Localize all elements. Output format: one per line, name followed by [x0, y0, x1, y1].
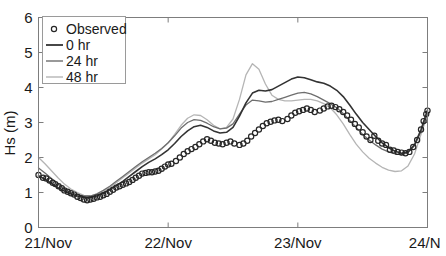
x-tick-label: 23/Nov	[274, 234, 322, 251]
y-tick-label: 6	[24, 9, 32, 26]
y-tick-label: 2	[24, 149, 32, 166]
x-tick-label: 21/Nov	[25, 234, 73, 251]
x-tick-label: 22/Nov	[144, 234, 192, 251]
chart-figure: 012345621/Nov22/Nov23/Nov24/N Hs (m) Obs…	[0, 0, 446, 256]
legend-label-0-hr: 0 hr	[66, 37, 90, 53]
chart-legend: Observed0 hr24 hr48 hr	[43, 17, 127, 86]
y-tick-label: 3	[24, 114, 32, 131]
y-axis-title: Hs (m)	[1, 111, 18, 156]
legend-label-24-hr: 24 hr	[66, 53, 98, 69]
legend-label-48-hr: 48 hr	[66, 69, 98, 85]
y-tick-label: 5	[24, 44, 32, 61]
chart-svg: 012345621/Nov22/Nov23/Nov24/N Hs (m) Obs…	[0, 0, 446, 256]
y-tick-label: 1	[24, 184, 32, 201]
observed-marker	[117, 184, 122, 189]
y-tick-label: 4	[24, 79, 32, 96]
legend-label-Observed: Observed	[66, 21, 127, 37]
x-tick-label: 24/N	[409, 234, 441, 251]
series-line-24-hr	[39, 92, 428, 196]
axis-title-layer: Hs (m)	[1, 111, 18, 156]
